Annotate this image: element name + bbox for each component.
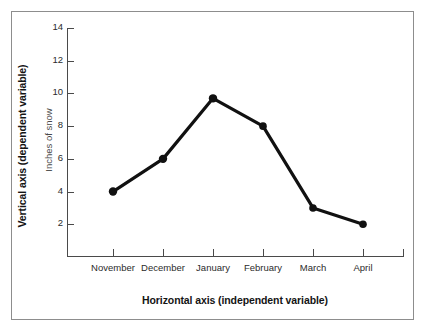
data-point-november (109, 187, 117, 195)
y-tick-label: 8 (58, 119, 63, 130)
x-tick-label-january: January (196, 262, 230, 273)
y-tick-label: 14 (52, 21, 63, 32)
x-tick-label-march: March (300, 262, 326, 273)
data-point-december (159, 155, 167, 163)
data-series-line (67, 28, 404, 257)
series-markers (109, 94, 367, 228)
chart-figure: Vertical axis (dependent variable) Inche… (0, 0, 428, 332)
x-tick-label-april: April (353, 262, 372, 273)
x-tick-label-november: November (91, 262, 135, 273)
y-tick-label: 4 (58, 185, 63, 196)
y-tick-label: 10 (52, 86, 63, 97)
data-point-april (359, 220, 367, 228)
data-point-february (259, 122, 267, 130)
x-tick-label-february: February (244, 262, 282, 273)
y-axis-title: Vertical axis (dependent variable) (9, 30, 35, 262)
data-point-march (309, 204, 317, 212)
plot-area: 2468101214 NovemberDecemberJanuaryFebrua… (67, 28, 404, 257)
series-polyline (113, 98, 363, 224)
y-tick-label: 2 (58, 217, 63, 228)
y-axis-unit-label: Inches of snow (40, 55, 56, 225)
y-tick-label: 6 (58, 152, 63, 163)
data-point-january (209, 94, 217, 102)
y-tick-label: 12 (52, 54, 63, 65)
x-tick-label-december: December (141, 262, 185, 273)
x-axis-title: Horizontal axis (independent variable) (60, 294, 410, 306)
